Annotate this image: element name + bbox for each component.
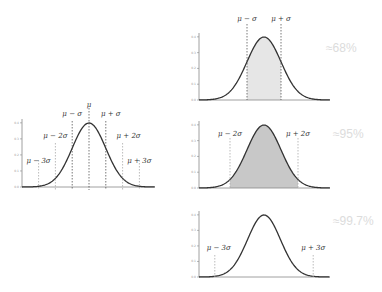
chart-68: 0.00.10.20.30.4μ − σμ + σ (191, 15, 330, 102)
sigma-label: μ + 2σ (286, 130, 310, 138)
shaded-area (247, 37, 281, 100)
y-tick-label: 0.0 (191, 275, 196, 279)
y-tick-label: 0.1 (191, 170, 196, 174)
y-tick-label: 0.2 (191, 154, 196, 158)
sigma-label: μ − 3σ (27, 157, 51, 165)
y-tick-label: 0.4 (14, 121, 19, 125)
y-tick-label: 0.1 (191, 82, 196, 86)
y-tick-label: 0.2 (14, 153, 19, 157)
label-95-percent: ≈95% (333, 127, 364, 141)
label-68-percent: ≈68% (326, 41, 357, 55)
sigma-label: μ (87, 101, 92, 109)
y-tick-label: 0.3 (191, 51, 196, 55)
sigma-label: μ + 2σ (117, 132, 141, 140)
label-99-7-percent: ≈99.7% (333, 214, 374, 228)
sigma-label: μ − 2σ (218, 130, 242, 138)
sigma-label: μ + 3σ (301, 244, 325, 252)
chart-95: 0.00.10.20.30.4μ − 2σμ + 2σ (191, 121, 330, 190)
y-tick-label: 0.3 (14, 137, 19, 141)
y-tick-label: 0.2 (191, 66, 196, 70)
y-tick-label: 0.4 (191, 123, 196, 127)
sigma-label: μ − 3σ (207, 244, 231, 252)
y-tick-label: 0.0 (191, 98, 196, 102)
y-tick-label: 0.1 (14, 169, 19, 173)
y-tick-label: 0.4 (191, 213, 196, 217)
y-tick-label: 0.1 (191, 259, 196, 263)
chart-99-7: 0.00.10.20.30.4μ − 3σμ + 3σ (191, 211, 330, 279)
sigma-label: μ − σ (62, 110, 82, 118)
y-tick-label: 0.2 (191, 244, 196, 248)
y-tick-label: 0.0 (191, 186, 196, 190)
y-tick-label: 0.4 (191, 35, 196, 39)
sigma-label: μ + 3σ (127, 157, 151, 165)
y-tick-label: 0.0 (14, 185, 19, 189)
sigma-label: μ − 2σ (43, 132, 67, 140)
sigma-label: μ + σ (101, 110, 121, 118)
sigma-label: μ − σ (237, 15, 257, 23)
normal-distribution-figure: 0.00.10.20.30.4μ − 3σμ − 2σμ − σμμ + σμ … (0, 0, 382, 292)
y-tick-label: 0.3 (191, 228, 196, 232)
y-tick-label: 0.3 (191, 139, 196, 143)
main-chart: 0.00.10.20.30.4μ − 3σμ − 2σμ − σμμ + σμ … (14, 101, 155, 190)
sigma-label: μ + σ (271, 15, 291, 23)
